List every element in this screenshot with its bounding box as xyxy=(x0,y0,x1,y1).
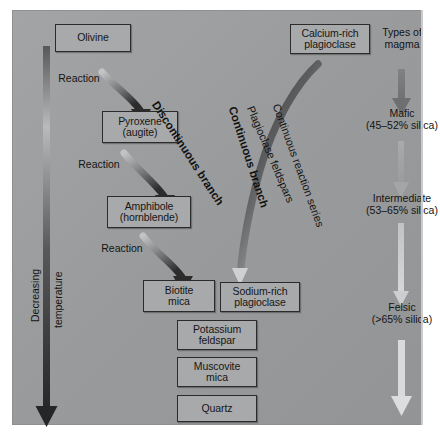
mineral-box-potassium-feldspar-label: Potassium feldspar xyxy=(193,324,241,347)
mineral-box-muscovite-mica[interactable]: Muscovite mica xyxy=(177,357,257,387)
magma-arrow-bottom xyxy=(391,340,412,416)
mineral-box-amphibole-label: Amphibole (hornblende) xyxy=(120,201,178,224)
magma-type-felsic-silica: (>65% silica) xyxy=(349,313,440,325)
magma-arrow-felsic xyxy=(393,223,409,306)
reaction-label-1: Reaction xyxy=(47,72,111,84)
mineral-box-biotite-label: Biotite mica xyxy=(165,285,193,308)
magma-type-intermediate-silica: (53–65% silica) xyxy=(347,204,440,216)
mineral-box-potassium-feldspar[interactable]: Potassium feldspar xyxy=(177,320,257,350)
discontinuous-branch-label: Discontinuous branch xyxy=(150,99,226,207)
mineral-box-calcium-rich-plagioclase[interactable]: Calcium-rich plagioclase xyxy=(290,24,370,54)
diagram-panel: Olivine Pyroxene (augite) Amphibole (hor… xyxy=(12,10,422,425)
bowens-reaction-series-diagram: Olivine Pyroxene (augite) Amphibole (hor… xyxy=(0,0,440,443)
mineral-box-sodium-rich-plagioclase-label: Sodium-rich plagioclase xyxy=(233,286,288,309)
mineral-box-olivine-label: Olivine xyxy=(77,32,108,44)
mineral-box-quartz-label: Quartz xyxy=(202,403,233,415)
continuous-branch-label: Continuous branch xyxy=(227,105,271,209)
reaction-label-3: Reaction xyxy=(90,242,154,254)
decreasing-temperature-label-2: temperature xyxy=(52,271,64,328)
mineral-box-sodium-rich-plagioclase[interactable]: Sodium-rich plagioclase xyxy=(220,282,300,312)
mineral-box-olivine[interactable]: Olivine xyxy=(55,24,131,52)
types-of-magma-header: Types of magma xyxy=(362,26,440,50)
magma-type-mafic-silica: (45–52% silica) xyxy=(349,119,440,131)
magma-type-felsic-name: Felsic xyxy=(362,301,440,313)
magma-arrow-intermediate xyxy=(393,141,409,198)
mineral-box-pyroxene-label: Pyroxene (augite) xyxy=(118,116,162,139)
mineral-box-muscovite-mica-label: Muscovite mica xyxy=(194,361,240,384)
mineral-box-biotite[interactable]: Biotite mica xyxy=(143,280,215,312)
reaction-label-2: Reaction xyxy=(67,158,131,170)
mineral-box-amphibole[interactable]: Amphibole (hornblende) xyxy=(107,196,191,228)
decreasing-temperature-label-1: Decreasing xyxy=(29,269,41,322)
mineral-box-quartz[interactable]: Quartz xyxy=(177,395,257,422)
magma-type-mafic-name: Mafic xyxy=(362,107,440,119)
mineral-box-calcium-rich-plagioclase-label: Calcium-rich plagioclase xyxy=(301,28,358,51)
temperature-arrow xyxy=(36,46,58,427)
magma-type-intermediate-name: Intermediate xyxy=(349,192,440,204)
